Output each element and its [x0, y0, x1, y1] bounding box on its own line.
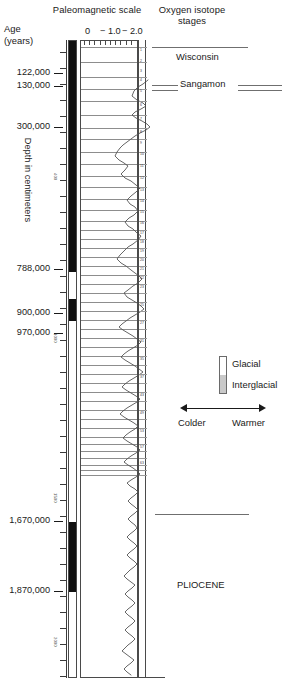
stage-number-57: 57 — [140, 446, 144, 449]
stage-strip-line-44 — [139, 475, 147, 476]
depth-tick-21 — [60, 388, 66, 389]
depth-tick-9 — [60, 196, 66, 197]
depth-axis-label: Depth in centimeters — [23, 126, 33, 234]
oxygen-isotope-curve — [80, 40, 138, 678]
paleomag-band-brunhes-normal — [69, 41, 76, 272]
depth-tick-15 — [60, 292, 66, 293]
depth-tick-1 — [60, 68, 66, 69]
wisconsin-top-rule — [152, 47, 248, 48]
stage-strip-line-5 — [139, 115, 147, 116]
age-tick-1 — [54, 86, 63, 87]
legend-glacial-swatch — [220, 357, 226, 375]
oxygen-isotope-stages-title: Oxygen isotope stages — [146, 4, 238, 27]
stage-number-1: 1 — [140, 49, 142, 52]
temperature-direction-arrow — [180, 404, 266, 413]
stage-number-strip: 1234567891011121314151617181920212223252… — [138, 40, 146, 678]
stage-number-25: 25 — [140, 304, 144, 307]
arrow-head-right-icon — [259, 404, 266, 412]
age-label-7: 1,870,000 — [0, 585, 50, 595]
stage-strip-line-24 — [139, 311, 147, 312]
stage-strip-line-41 — [139, 458, 147, 459]
stage-number-15: 15 — [140, 211, 144, 214]
depth-tick-13 — [60, 260, 66, 261]
stage-number-17: 17 — [140, 232, 144, 235]
oxygen-isotope-plot: 1234567891011121314151617181920212223252… — [80, 40, 146, 678]
depth-tick-32 — [60, 564, 66, 565]
colder-label: Colder — [178, 417, 206, 428]
stage-number-27: 27 — [140, 322, 144, 325]
depth-axis-line — [66, 40, 67, 678]
depth-tick-number-8: 400 — [53, 173, 58, 180]
pliocene-boundary-rule — [155, 514, 249, 515]
depth-tick-18 — [60, 340, 66, 341]
stage-number-14: 14 — [140, 200, 144, 203]
age-tick-4 — [54, 313, 63, 314]
depth-tick-14 — [60, 276, 66, 277]
depth-tick-12 — [60, 244, 66, 245]
age-label-3: 788,000 — [0, 263, 50, 273]
depth-tick-6 — [60, 148, 66, 149]
annotation-wisconsin: Wisconsin — [176, 51, 219, 62]
depth-tick-27 — [60, 484, 66, 485]
depth-tick-5 — [60, 132, 66, 133]
age-axis-label: Age (years) — [4, 23, 33, 46]
sangamon-left-rule-a — [152, 85, 178, 86]
annotation-pliocene: PLIOCENE — [177, 579, 224, 590]
age-tick-6 — [54, 521, 63, 522]
age-tick-7 — [54, 591, 63, 592]
depth-tick-37 — [60, 644, 66, 645]
stage-strip-line-4 — [139, 101, 147, 102]
depth-tick-7 — [60, 164, 66, 165]
age-axis-label-line1: Age — [4, 23, 33, 35]
depth-tick-number-28: 1500 — [53, 493, 58, 503]
depth-tick-17 — [60, 324, 66, 325]
paleomagnetic-scale-title: Paleomagnetic scale — [44, 4, 150, 15]
stage-number-18: 18 — [140, 241, 144, 244]
stage-strip-line-32 — [139, 383, 147, 384]
age-label-1: 130,000 — [0, 80, 50, 90]
stage-number-31: 31 — [140, 340, 144, 343]
depth-tick-30 — [60, 532, 66, 533]
stage-number-63: 63 — [140, 462, 144, 465]
legend-interglacial-swatch — [220, 375, 226, 393]
stage-number-7: 7 — [140, 118, 142, 121]
scale-tick-label-1: − 1.0 — [100, 26, 121, 36]
depth-tick-35 — [60, 612, 66, 613]
arrow-shaft — [186, 408, 260, 409]
paleoclimate-stratigraphic-figure: Paleomagnetic scale Oxygen isotope stage… — [0, 0, 284, 699]
depth-tick-31 — [60, 548, 66, 549]
scale-tick-label-2: − 2.0 — [122, 26, 143, 36]
annotation-sangamon: Sangamon — [180, 78, 225, 89]
depth-tick-20 — [60, 372, 66, 373]
stage-number-10: 10 — [140, 153, 144, 156]
depth-tick-number-18: 1000 — [53, 333, 58, 343]
depth-tick-4 — [60, 116, 66, 117]
stage-number-19: 19 — [140, 250, 144, 253]
depth-tick-8 — [60, 180, 66, 181]
stage-number-5: 5 — [140, 90, 142, 93]
stage-number-8: 8 — [140, 131, 142, 134]
depth-tick-25 — [60, 452, 66, 453]
legend-glacial-label: Glacial — [232, 358, 261, 369]
age-axis-label-line2: (years) — [4, 35, 33, 47]
paleomag-band-olduvai-normal — [69, 522, 76, 592]
scale-tick-label-0: 0 — [85, 26, 90, 36]
stage-strip-line-43 — [139, 470, 147, 471]
depth-tick-23 — [60, 420, 66, 421]
depth-tick-34 — [60, 596, 66, 597]
paleomagnetic-polarity-column — [68, 40, 77, 678]
paleomag-band-jaramillo-normal — [69, 299, 76, 321]
stage-strip-line-36 — [139, 419, 147, 420]
legend-color-swatch — [219, 356, 227, 394]
stage-number-43: 43 — [140, 394, 144, 397]
stage-strip-line-30 — [139, 365, 147, 366]
age-label-0: 122,000 — [0, 67, 50, 77]
stage-strip-line-40 — [139, 451, 147, 452]
stage-number-9: 9 — [140, 142, 142, 145]
depth-tick-11 — [60, 228, 66, 229]
depth-tick-26 — [60, 468, 66, 469]
depth-tick-19 — [60, 356, 66, 357]
stage-number-4: 4 — [140, 79, 142, 82]
depth-tick-38 — [60, 660, 66, 661]
stage-strip-line-28 — [139, 347, 147, 348]
